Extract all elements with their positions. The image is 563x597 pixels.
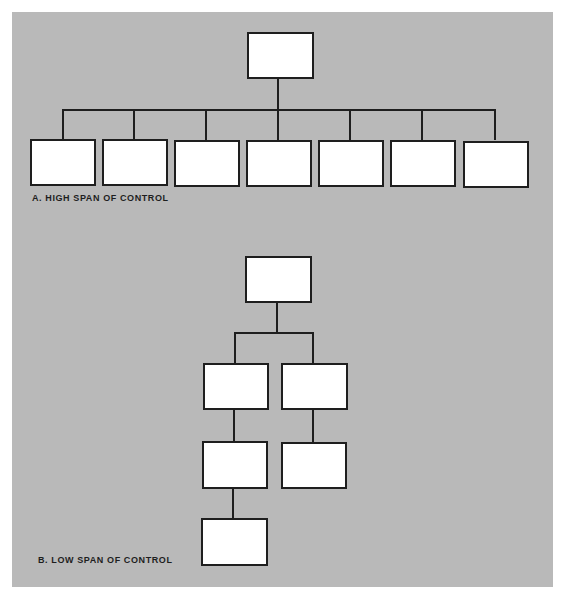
connector-b-root-stem	[276, 302, 278, 334]
org-box-b-root	[245, 256, 312, 303]
org-box-a-child-4	[246, 140, 312, 187]
org-box-b-right-1	[281, 363, 348, 410]
connector-a-drop-7	[494, 109, 496, 140]
connector-a-horizontal-bar	[62, 109, 496, 111]
connector-a-root-stem	[277, 78, 279, 111]
caption-b-low-span: B. LOW SPAN OF CONTROL	[38, 555, 173, 565]
org-box-a-child-3	[174, 140, 240, 187]
org-box-a-child-7	[463, 141, 529, 188]
connector-a-drop-6	[421, 109, 423, 140]
org-box-b-left-3	[201, 518, 268, 566]
caption-a-high-span: A. HIGH SPAN OF CONTROL	[32, 193, 169, 203]
org-box-a-child-5	[318, 140, 384, 187]
connector-b-right-1-2	[312, 409, 314, 442]
org-box-b-left-1	[203, 363, 269, 410]
connector-b-left-2-3	[232, 488, 234, 519]
org-box-a-child-2	[102, 139, 168, 186]
connector-b-drop-right	[312, 332, 314, 364]
connector-a-drop-5	[349, 109, 351, 140]
connector-a-drop-1	[62, 109, 64, 140]
connector-b-left-1-2	[233, 409, 235, 442]
connector-b-drop-left	[234, 332, 236, 364]
org-box-a-child-1	[30, 139, 96, 186]
org-box-b-left-2	[202, 441, 268, 489]
org-box-a-root	[247, 32, 314, 79]
org-box-a-child-6	[390, 140, 456, 187]
connector-b-horizontal-bar	[234, 332, 314, 334]
connector-a-drop-3	[205, 109, 207, 140]
connector-a-drop-2	[133, 109, 135, 140]
connector-a-drop-4	[277, 109, 279, 140]
org-box-b-right-2	[281, 442, 347, 489]
